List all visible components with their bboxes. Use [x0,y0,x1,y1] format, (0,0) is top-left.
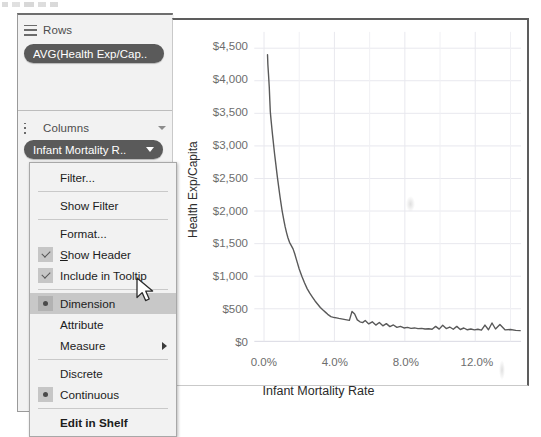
rows-shelf-header: Rows [18,20,174,40]
pill-columns-label: Infant Mortality R.. [33,144,141,156]
y-tick-label: $2,500 [213,172,248,184]
x-tick-label: 12.0% [461,356,494,368]
x-tick-label: 0.0% [251,356,277,368]
y-tick-label: $3,000 [213,139,248,151]
menu-item-measure[interactable]: Measure [30,335,176,356]
menu-separator [38,408,168,409]
menu-item-label: Discrete [60,368,103,380]
menu-item-discrete[interactable]: Discrete [30,363,176,384]
menu-separator [38,219,168,220]
rows-icon [24,25,37,36]
y-tick-label: $3,500 [213,106,248,118]
check-icon [38,247,53,262]
pill-columns-infant-mortality[interactable]: Infant Mortality R.. [24,140,163,159]
menu-item-attribute[interactable]: Attribute [30,314,176,335]
columns-shelf[interactable]: Columns Infant Mortality R.. [18,113,174,169]
columns-shelf-header: Columns [18,118,174,138]
menu-item-show-filter[interactable]: Show Filter [30,195,176,216]
menu-item-show-header[interactable]: Show Header [30,244,176,265]
chart-line-series-0 [268,55,521,331]
menu-item-label: Dimension [60,298,115,310]
pill-chevron-down-icon[interactable] [146,147,154,152]
y-tick-label: $1,000 [213,270,248,282]
rows-shelf-label: Rows [43,24,168,36]
scan-smudge-2 [499,360,505,380]
rows-shelf[interactable]: Rows AVG(Health Exp/Cap.. [18,15,174,111]
scan-artifact [2,2,58,7]
x-tick-label: 4.0% [322,356,348,368]
menu-item-label: Format... [60,228,107,240]
y-tick-label: $0 [235,336,248,348]
y-tick-label: $4,000 [213,73,248,85]
menu-separator [38,191,168,192]
y-axis-tick-labels: $0$500$1,000$1,500$2,000$2,500$3,000$3,5… [196,18,248,386]
scan-smudge [406,196,415,212]
menu-separator [38,359,168,360]
menu-item-continuous[interactable]: Continuous [30,384,176,405]
pill-rows-avg-health-exp[interactable]: AVG(Health Exp/Cap.. [24,44,164,63]
columns-shelf-label: Columns [43,122,158,134]
x-axis-title-text: Infant Mortality Rate [263,384,375,398]
check-icon [38,268,53,283]
mouse-pointer-icon [136,277,158,305]
menu-item-label: Filter... [60,172,95,184]
menu-item-label: Show Header [60,249,131,261]
y-tick-label: $4,500 [213,40,248,52]
menu-item-edit-in-shelf[interactable]: Edit in Shelf [30,412,176,433]
menu-item-label: Continuous [60,389,119,401]
y-tick-label: $500 [222,303,248,315]
menu-item-label: Edit in Shelf [60,417,128,429]
y-tick-label: $2,000 [213,205,248,217]
menu-item-filter[interactable]: Filter... [30,167,176,188]
columns-icon [24,123,37,134]
pill-rows-label: AVG(Health Exp/Cap.. [33,48,155,60]
chart-gridlines [254,32,521,341]
x-tick-label: 8.0% [393,356,419,368]
radio-selected-icon [38,387,53,402]
menu-item-label: Include in Tooltip [60,270,147,282]
y-tick-label: $1,500 [213,237,248,249]
radio-selected-icon [38,296,53,311]
menu-item-label: Measure [60,340,105,352]
menu-item-format[interactable]: Format... [30,223,176,244]
menu-item-label: Attribute [60,319,104,331]
chevron-right-icon [162,342,167,350]
chevron-down-icon[interactable] [158,126,166,130]
menu-item-label: Show Filter [60,200,118,212]
